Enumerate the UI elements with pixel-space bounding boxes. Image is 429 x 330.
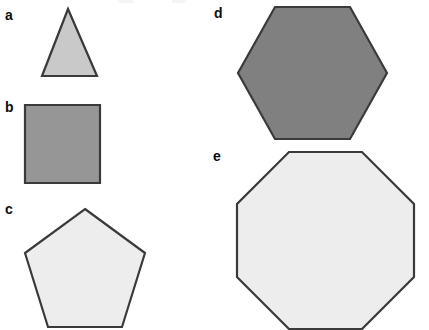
panel-label-b: b <box>5 100 14 114</box>
panel-label-e: e <box>213 149 221 163</box>
panel-label-d: d <box>214 6 223 20</box>
panel-label-a: a <box>5 8 13 22</box>
square-shape <box>25 105 100 183</box>
panel-label-c: c <box>5 202 13 216</box>
polygon-figure: a b c d e <box>0 0 429 330</box>
shape-canvas <box>0 0 429 330</box>
octagon-shape <box>237 152 414 329</box>
hexagon-shape <box>238 7 387 139</box>
pentagon-shape <box>25 209 145 327</box>
triangle-shape <box>42 9 97 76</box>
